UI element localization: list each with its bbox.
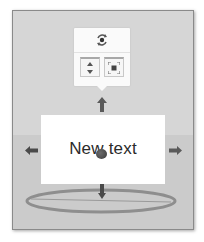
center-move-handle[interactable]	[96, 149, 107, 159]
move-up-arrow-icon[interactable]	[97, 97, 107, 112]
move-down-arrow-icon[interactable]	[98, 184, 106, 199]
3d-viewport[interactable]: New text	[12, 10, 194, 230]
rotate-button[interactable]	[74, 28, 130, 53]
focus-frame-button[interactable]	[104, 57, 124, 77]
object-toolbar-popup	[74, 28, 130, 86]
move-left-arrow-icon[interactable]	[25, 146, 38, 155]
move-right-arrow-icon[interactable]	[169, 146, 182, 155]
move-vertical-button[interactable]	[80, 57, 100, 77]
focus-frame-icon	[108, 62, 120, 74]
rotate-orbit-icon	[95, 33, 109, 47]
move-vertical-icon	[86, 62, 94, 74]
